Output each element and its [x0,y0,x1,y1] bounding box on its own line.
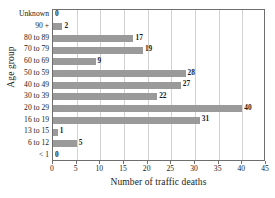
y-axis-tick-label: < 1 [0,151,49,159]
bar-row [53,22,264,34]
y-axis-tick-label: 20 to 29 [0,104,49,112]
y-axis-tick-label: 40 to 49 [0,81,49,89]
y-axis-tick-label: 70 to 79 [0,45,49,53]
bar [53,129,58,136]
bar-row [53,104,264,116]
bar [53,93,157,100]
bar-row [53,45,264,57]
bar [53,105,242,112]
x-axis-title: Number of traffic deaths [52,177,265,187]
bar-row [53,92,264,104]
y-axis-tick-label: 80 to 89 [0,34,49,42]
x-axis-tick-label: 20 [135,164,159,173]
bar-row [53,80,264,92]
bar [53,58,96,65]
y-axis-tick-label: 13 to 15 [0,127,49,135]
bar-row [53,127,264,139]
bar-row [53,68,264,80]
y-axis-tick-label: 90 + [0,22,49,30]
y-axis-tick-labels: < 16 to 1213 to 1516 to 1920 to 2930 to … [0,9,49,161]
x-axis-tick-label: 45 [253,164,275,173]
x-axis-tick-label: 30 [182,164,206,173]
x-axis-tick-label: 35 [206,164,230,173]
y-axis-tick-label: 6 to 12 [0,139,49,147]
bar-row [53,33,264,45]
bar-row [53,57,264,69]
y-axis-tick-label: 30 to 39 [0,92,49,100]
bar [53,23,62,30]
bar [53,70,186,77]
x-axis-tick-label: 40 [229,164,253,173]
plot-area [52,9,265,161]
y-axis-tick-label: Unknown [0,10,49,18]
bar [53,140,77,147]
bar-row [53,139,264,151]
y-axis-tick-label: 16 to 19 [0,116,49,124]
y-axis-tick-label: 50 to 59 [0,69,49,77]
x-axis-tick-label: 5 [64,164,88,173]
bar-row [53,150,264,161]
x-axis-tick-label: 10 [87,164,111,173]
bar [53,82,181,89]
bar-row [53,10,264,22]
bar-row [53,115,264,127]
bar [53,35,133,42]
bar [53,117,200,124]
bar-series [53,10,264,160]
x-axis-tick-label: 0 [40,164,64,173]
x-axis-tick-label: 25 [158,164,182,173]
y-axis-tick-label: 60 to 69 [0,57,49,65]
x-axis-tick-labels: 051015202530354045 [52,164,265,176]
x-axis-tick-label: 15 [111,164,135,173]
bar [53,47,143,54]
bar-chart: Age group < 16 to 1213 to 1516 to 1920 t… [0,0,275,198]
